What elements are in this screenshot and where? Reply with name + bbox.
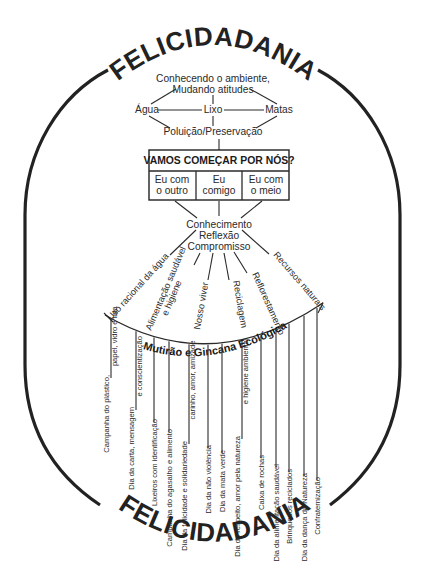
- outline-top-left: [25, 70, 108, 505]
- hub-line2: Reflexão: [199, 230, 240, 241]
- hub-line3: Compromisso: [188, 241, 251, 252]
- felicidadania-diagram: FELICIDADANIA FELICIDADANIA Conhecendo o…: [0, 0, 425, 576]
- activity-label: carinho, amor, amizade: [188, 340, 197, 419]
- hub-line1: Conhecimento: [186, 219, 252, 230]
- activity-label: Dia da dança da Natureza: [300, 472, 309, 561]
- event-arc-label: Mutirão e Gincana Ecológica: [142, 318, 289, 358]
- connector: [256, 116, 277, 128]
- activity-label: e higiene ambiental: [241, 338, 250, 404]
- activity-label: Dia da carta, mensagem: [127, 407, 136, 490]
- box-header: VAMOS COMEÇAR POR NÓS?: [143, 154, 294, 166]
- fan-line: [234, 252, 247, 273]
- connector: [250, 89, 277, 104]
- diagram-canvas: FELICIDADANIA FELICIDADANIA Conhecendo o…: [0, 0, 425, 576]
- activity-label: Dia da alimentação saudável: [272, 464, 281, 562]
- activity-label: Dia da mata verde: [218, 450, 227, 512]
- cluster-left-node: Água: [135, 103, 159, 115]
- connector: [175, 201, 197, 218]
- theme-label: Reciclagem: [231, 280, 249, 329]
- theme-label: Recursos naturais: [271, 250, 327, 313]
- connector: [151, 89, 176, 104]
- fan-line: [194, 253, 200, 265]
- cluster-right-node: Matas: [265, 104, 293, 115]
- activity-label: Campanha do plástico,: [102, 375, 111, 453]
- activity-label: Brinquedos reciclados: [285, 469, 294, 544]
- box-cell-line2: comigo: [203, 185, 236, 196]
- box-cell-line1: Eu: [213, 174, 225, 185]
- outline-top-right: [318, 70, 400, 505]
- box-cell-line1: Eu com: [249, 174, 284, 185]
- activity-label: Dia do respeito, amor pela natureza: [233, 435, 242, 557]
- theme-labels: Uso racional da água Alimentação saudáve…: [105, 245, 328, 336]
- theme-label: Nosso viver: [192, 281, 210, 330]
- fan-line: [224, 253, 229, 280]
- start-box: VAMOS COMEÇAR POR NÓS? Eu com o outro Eu…: [143, 150, 294, 200]
- box-cell-line1: Eu com: [155, 174, 190, 185]
- box-cell-line2: o outro: [156, 185, 188, 196]
- fan-line: [208, 253, 213, 280]
- activity-label: papel, vidro e lata: [110, 305, 119, 366]
- activity-label: Dia da felicidade e solidariedade: [180, 441, 189, 551]
- cluster-middle-node: Lixo: [204, 104, 223, 115]
- connector: [241, 201, 262, 218]
- activity-label: Campanha do agasalho e alimento: [165, 429, 174, 547]
- cluster-center-line1: Conhecendo o ambiente,: [156, 73, 270, 84]
- box-cell-line2: o meio: [251, 185, 282, 196]
- activity-label: e conscientização: [135, 336, 144, 396]
- cluster-bottom-node: Poluição/Preservação: [163, 126, 262, 137]
- cluster-center-line2: Mudando atitudes: [173, 84, 254, 95]
- activity-label: Lixeiros com identificação: [150, 419, 159, 506]
- activity-label: Confraternização: [313, 477, 322, 535]
- connector: [149, 116, 170, 128]
- activity-label: Dia da não violência: [204, 444, 213, 513]
- cluster-connectors: [149, 89, 277, 150]
- activity-label: Caixa de rochas: [257, 455, 266, 510]
